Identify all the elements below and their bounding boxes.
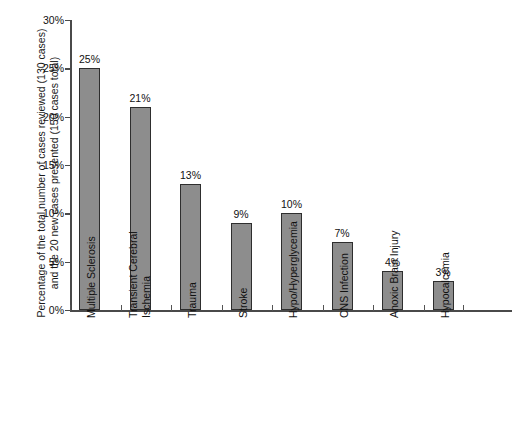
y-axis-tick — [65, 20, 71, 21]
bar-value-label: 9% — [221, 209, 261, 220]
y-axis-tick — [65, 213, 71, 214]
x-axis-category-label-line: Trauma — [186, 282, 199, 318]
bar-chart: Percentage of the total number of cases … — [0, 0, 518, 433]
x-axis-category-label-text: Trauma — [186, 282, 199, 318]
bar-value-label: 7% — [322, 228, 362, 239]
x-axis-category-label-line: Multiple Sclerosis — [85, 236, 98, 318]
y-axis-tick — [65, 165, 71, 166]
x-axis-category-label-line: Anoxic Brain Injury — [388, 230, 401, 318]
y-axis-tick-label: 15% — [30, 160, 64, 171]
x-axis-category-label-text: Hypo/Hyperglycemia — [287, 221, 300, 318]
y-axis-tick — [65, 68, 71, 69]
y-axis-tick-label: 0% — [30, 305, 64, 316]
y-axis-tick-label: 20% — [30, 112, 64, 123]
y-axis-tick-label: 25% — [30, 63, 64, 74]
bar-value-label: 13% — [171, 170, 211, 181]
x-axis-tick — [171, 305, 172, 311]
y-axis-tick-label: 30% — [30, 15, 64, 26]
x-axis-category-label-text: Hypocalcemia — [439, 252, 452, 318]
x-axis-category-label-line: Hypocalcemia — [439, 252, 452, 318]
x-axis-category-label-text: Stroke — [237, 288, 250, 318]
x-axis-tick — [373, 305, 374, 311]
x-axis-category-label-line: Hypo/Hyperglycemia — [287, 221, 300, 318]
x-axis-category-label-line: Stroke — [237, 288, 250, 318]
x-axis-tick — [323, 305, 324, 311]
x-axis-category-label-text: Transient CerebralIschemia — [127, 231, 152, 318]
x-axis-category-label-text: Anoxic Brain Injury — [388, 230, 401, 318]
y-axis-tick-label: 10% — [30, 208, 64, 219]
bar-value-label: 25% — [70, 54, 110, 65]
x-axis-tick — [272, 305, 273, 311]
x-axis-category-label-line: CNS Infection — [338, 253, 351, 318]
x-axis-category-label-text: Multiple Sclerosis — [85, 236, 98, 318]
y-axis-tick-labels: 0%5%10%15%20%25%30% — [22, 0, 64, 433]
bar-value-label: 10% — [272, 199, 312, 210]
x-axis-category-label-line: Ischemia — [140, 231, 153, 318]
x-axis-category-label-line: Transient Cerebral — [127, 231, 140, 318]
x-axis-tick — [222, 305, 223, 311]
y-axis-tick — [65, 117, 71, 118]
y-axis-tick-label: 5% — [30, 257, 64, 268]
x-axis-tick — [70, 305, 71, 311]
x-axis-tick — [121, 305, 122, 311]
y-axis-tick — [65, 262, 71, 263]
x-axis-category-label-text: CNS Infection — [338, 253, 351, 318]
x-axis-tick — [424, 305, 425, 311]
x-axis-tick — [463, 305, 464, 311]
bar-value-label: 21% — [120, 93, 160, 104]
